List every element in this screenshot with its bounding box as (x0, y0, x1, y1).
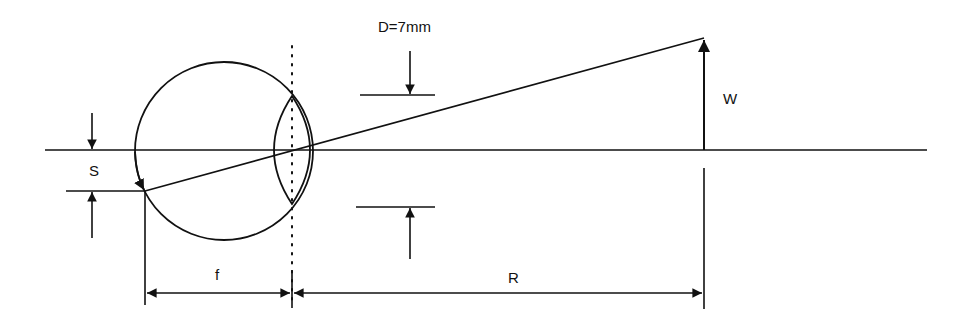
distance-label: R (508, 270, 519, 285)
eye-optics-diagram: D=7mm W S f R (0, 0, 973, 331)
focal-length-label: f (215, 267, 219, 282)
image-size-label: S (89, 163, 99, 178)
pupil-diameter-label: D=7mm (378, 19, 431, 34)
eyeball (135, 62, 313, 240)
object-size-label: W (723, 91, 737, 106)
chief-ray (145, 38, 704, 191)
image-arrow (135, 152, 144, 190)
